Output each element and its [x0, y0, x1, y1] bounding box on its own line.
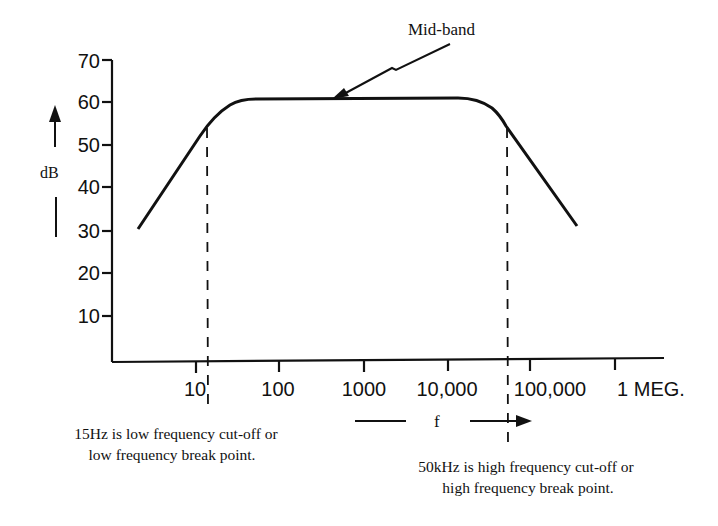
high-cutoff-line: [507, 128, 508, 448]
low-cutoff-note-2: low frequency break point.: [89, 446, 256, 463]
f-label: f: [434, 412, 440, 431]
y-tick-10: 10: [78, 305, 100, 327]
midband-label: Mid-band: [408, 20, 476, 39]
high-cutoff-note-2: high frequency break point.: [442, 479, 613, 496]
y-tick-70: 70: [78, 50, 100, 72]
x-tick-100: 100: [261, 378, 294, 400]
y-tick-labels: 70 60 50 40 30 20 10: [78, 50, 100, 327]
x-tick-labels: 10 100 1000 10,000 100,000 1 MEG.: [184, 378, 685, 400]
x-tick-10: 10: [184, 378, 206, 400]
midband-annotation: Mid-band: [332, 20, 476, 99]
y-tick-60: 60: [78, 91, 100, 113]
low-cutoff-line: [207, 128, 208, 412]
y-axis-label: dB: [40, 105, 61, 237]
y-tick-20: 20: [78, 262, 100, 284]
up-arrow-icon: [49, 105, 61, 122]
x-tick-10000: 10,000: [416, 378, 477, 400]
cutoff-notes: 15Hz is low frequency cut-off or low fre…: [74, 425, 634, 496]
axes: [102, 60, 664, 373]
frequency-response-chart: 70 60 50 40 30 20 10 10 100 1000 10,000 …: [0, 0, 718, 526]
low-cutoff-note-1: 15Hz is low frequency cut-off or: [74, 425, 278, 442]
right-arrow-icon: [516, 415, 532, 427]
x-axis-label: f: [355, 412, 532, 431]
midband-pointer: [342, 44, 450, 95]
y-tick-50: 50: [78, 134, 100, 156]
y-tick-30: 30: [78, 220, 100, 242]
x-tick-1meg: 1 MEG.: [617, 378, 685, 400]
y-tick-40: 40: [78, 176, 100, 198]
x-tick-1000: 1000: [342, 378, 387, 400]
x-tick-100000: 100,000: [514, 378, 586, 400]
response-curve: [138, 98, 577, 229]
x-axis: [112, 358, 664, 362]
high-cutoff-note-1: 50kHz is high frequency cut-off or: [418, 458, 634, 475]
db-label: dB: [40, 164, 59, 181]
